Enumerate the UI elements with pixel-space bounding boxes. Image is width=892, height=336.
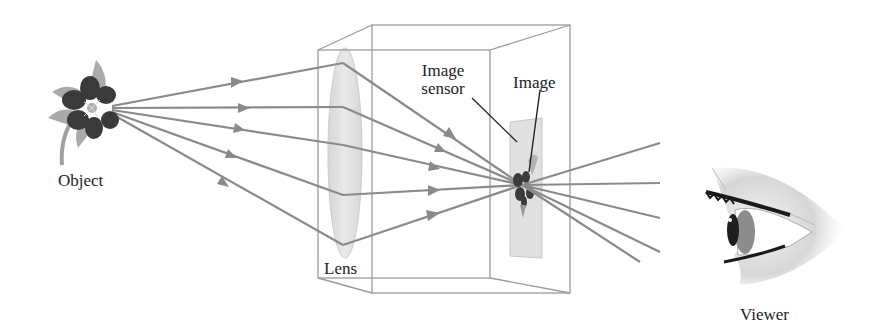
image-sensor-leader	[472, 98, 517, 142]
emerging-rays	[522, 143, 660, 262]
viewer-eye	[706, 168, 845, 285]
lens	[328, 48, 362, 258]
lens-label: Lens	[324, 260, 357, 278]
arrow-icon	[426, 127, 456, 221]
viewer-label: Viewer	[740, 306, 789, 324]
object-flower	[48, 60, 119, 165]
object-label: Object	[58, 172, 103, 190]
image-sensor-label-line2: sensor	[410, 80, 476, 98]
image-sensor-label-line1: Image	[410, 62, 476, 80]
camera-lens-diagram: Object Lens Image sensor Image Viewer	[0, 0, 892, 336]
image-label: Image	[513, 74, 555, 92]
arrow-icon	[217, 77, 250, 187]
diagram-canvas	[0, 0, 892, 336]
